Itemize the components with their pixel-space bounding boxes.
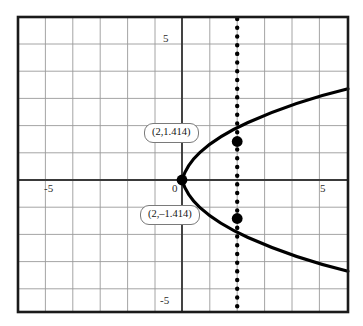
graph-figure: 5 -5 -5 5 0 (2,1.414) (2,–1.414) [0,0,363,326]
origin-point [177,175,188,186]
x-axis-tick-label-5: 5 [320,183,326,194]
lower-intersection-point [232,213,243,224]
y-axis-tick-label-5: 5 [163,33,169,44]
plot-canvas [0,0,363,326]
lower-point-callout: (2,–1.414) [140,205,200,225]
plot-background [18,17,348,312]
x-axis-tick-label-neg5: -5 [44,183,53,194]
y-axis-tick-label-neg5: -5 [160,295,169,306]
upper-point-callout: (2,1.414) [144,123,199,143]
origin-label: 0 [172,183,178,194]
upper-intersection-point [232,136,243,147]
